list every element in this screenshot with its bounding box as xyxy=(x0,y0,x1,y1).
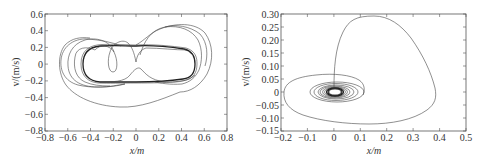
y-tick-label: 0.6 xyxy=(31,9,44,20)
x-tick-label: 0.4 xyxy=(175,132,188,143)
y-tick-label: 0.05 xyxy=(262,74,280,85)
y-tick-label: −0.15 xyxy=(256,125,279,136)
right-y-axis-title: v/(m/s) xyxy=(241,58,252,87)
x-tick-label: 0.2 xyxy=(380,132,393,143)
y-tick-label: −0.6 xyxy=(25,109,43,120)
y-tick-label: 0.4 xyxy=(31,25,44,36)
left-plot-frame xyxy=(45,14,227,131)
y-tick-label: −0.05 xyxy=(256,100,279,111)
right-chart-svg: −0.2 −0.1 0 0.1 0.2 0.3 0.4 0.5 0.30 0.2… xyxy=(241,0,482,163)
left-x-tick-labels: −0.8 −0.6 −0.4 −0.2 0 0.2 0.4 0.6 0.8 xyxy=(36,132,233,143)
y-tick-label: 0 xyxy=(274,87,279,98)
right-trajectories xyxy=(284,16,436,124)
x-tick-label: 0.3 xyxy=(407,132,420,143)
left-x-axis-title: x/m xyxy=(129,145,144,156)
y-tick-label: 0.30 xyxy=(262,9,280,20)
x-tick-label: −0.6 xyxy=(59,132,77,143)
trajectory-main-loop xyxy=(284,16,436,124)
y-tick-label: 0.15 xyxy=(262,48,280,59)
right-y-ticks xyxy=(281,14,466,131)
right-y-tick-labels: 0.30 0.25 0.20 0.15 0.10 0.05 0 −0.05 −0… xyxy=(256,9,279,136)
left-phase-portrait: −0.8 −0.6 −0.4 −0.2 0 0.2 0.4 0.6 0.8 0.… xyxy=(0,0,241,163)
x-tick-label: −0.1 xyxy=(298,132,316,143)
limit-cycle xyxy=(83,46,195,82)
left-trajectories xyxy=(59,25,211,108)
left-x-ticks xyxy=(45,14,227,131)
left-y-tick-labels: 0.6 0.4 0.2 0 −0.2 −0.4 −0.6 −0.8 xyxy=(25,9,43,136)
y-tick-label: 0.25 xyxy=(262,22,280,33)
y-tick-label: −0.2 xyxy=(25,75,43,86)
right-x-ticks xyxy=(281,14,466,131)
left-chart-svg: −0.8 −0.6 −0.4 −0.2 0 0.2 0.4 0.6 0.8 0.… xyxy=(0,0,241,163)
x-tick-label: 0 xyxy=(331,132,336,143)
y-tick-label: 0.2 xyxy=(31,42,44,53)
y-tick-label: −0.8 xyxy=(25,125,43,136)
y-tick-label: 0 xyxy=(38,59,43,70)
right-plot-frame xyxy=(281,14,466,131)
y-tick-label: 0.10 xyxy=(262,61,280,72)
x-tick-label: 0.8 xyxy=(221,132,234,143)
x-tick-label: 0.1 xyxy=(354,132,367,143)
right-x-tick-labels: −0.2 −0.1 0 0.1 0.2 0.3 0.4 0.5 xyxy=(274,132,472,143)
y-tick-label: −0.10 xyxy=(256,113,279,124)
right-x-axis-title: x/m xyxy=(366,145,381,156)
x-tick-label: 0.6 xyxy=(198,132,211,143)
x-tick-label: −0.4 xyxy=(81,132,99,143)
x-tick-label: 0.2 xyxy=(153,132,166,143)
y-tick-label: 0.20 xyxy=(262,35,280,46)
x-tick-label: 0.4 xyxy=(433,132,446,143)
x-tick-label: −0.2 xyxy=(104,132,122,143)
left-y-ticks xyxy=(45,14,227,131)
right-phase-portrait: −0.2 −0.1 0 0.1 0.2 0.3 0.4 0.5 0.30 0.2… xyxy=(241,0,482,163)
x-tick-label: 0 xyxy=(134,132,139,143)
x-tick-label: 0.5 xyxy=(460,132,473,143)
left-y-axis-title: v/(m/s) xyxy=(10,58,22,87)
y-tick-label: −0.4 xyxy=(25,92,43,103)
